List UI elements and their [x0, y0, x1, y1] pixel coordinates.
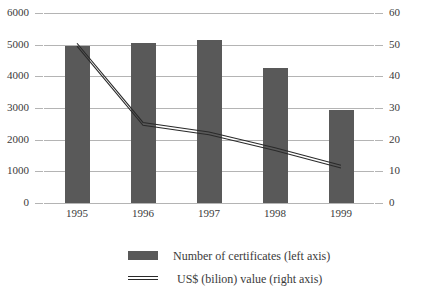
left-axis-tick — [35, 45, 43, 46]
left-axis-tick-label: 5000 — [0, 39, 29, 50]
right-axis-tick — [375, 108, 383, 109]
right-axis-tick — [375, 13, 383, 14]
left-axis-tick — [35, 171, 43, 172]
right-axis-tick-label: 10 — [389, 165, 400, 176]
left-axis-tick-label: 1000 — [0, 165, 29, 176]
right-axis-tick-label: 40 — [389, 70, 400, 81]
gridline — [44, 203, 374, 204]
legend-item-value: US$ (bilion) value (right axis) — [128, 267, 418, 290]
line-series — [44, 13, 374, 203]
plot-area — [44, 13, 374, 203]
right-axis-tick — [375, 76, 383, 77]
x-axis-tick-label: 1996 — [113, 208, 173, 219]
line-swatch-icon — [128, 275, 158, 282]
value-line-lower-stroke — [77, 46, 341, 168]
right-axis-tick — [375, 45, 383, 46]
left-axis-tick — [35, 108, 43, 109]
left-axis-tick-label: 4000 — [0, 70, 29, 81]
legend-item-label: US$ (bilion) value (right axis) — [177, 272, 322, 286]
legend-item-certificates: Number of certificates (left axis) — [128, 244, 418, 267]
legend-item-label: Number of certificates (left axis) — [173, 249, 330, 263]
right-axis-tick-label: 0 — [389, 197, 395, 208]
x-axis-tick-label: 1998 — [245, 208, 305, 219]
left-axis-tick — [35, 203, 43, 204]
right-axis-tick — [375, 203, 383, 204]
left-axis-tick-label: 6000 — [0, 7, 29, 18]
right-axis-tick — [375, 140, 383, 141]
right-axis-tick-label: 20 — [389, 134, 400, 145]
x-axis-tick-label: 1997 — [179, 208, 239, 219]
left-axis-tick-label: 3000 — [0, 102, 29, 113]
left-axis-tick-label: 0 — [0, 197, 29, 208]
x-axis-tick-label: 1995 — [47, 208, 107, 219]
right-axis-tick — [375, 171, 383, 172]
right-axis-tick-label: 60 — [389, 7, 400, 18]
right-axis-tick-label: 50 — [389, 39, 400, 50]
right-axis-tick-label: 30 — [389, 102, 400, 113]
chart-legend: Number of certificates (left axis) US$ (… — [128, 244, 418, 290]
bar-swatch-icon — [128, 251, 158, 260]
left-axis-tick — [35, 140, 43, 141]
x-axis-tick-label: 1999 — [311, 208, 371, 219]
combo-chart: 0100020003000400050006000 0102030405060 … — [0, 0, 429, 297]
left-axis-tick-label: 2000 — [0, 134, 29, 145]
left-axis-tick — [35, 76, 43, 77]
value-line-upper-stroke — [77, 43, 341, 165]
left-axis-tick — [35, 13, 43, 14]
